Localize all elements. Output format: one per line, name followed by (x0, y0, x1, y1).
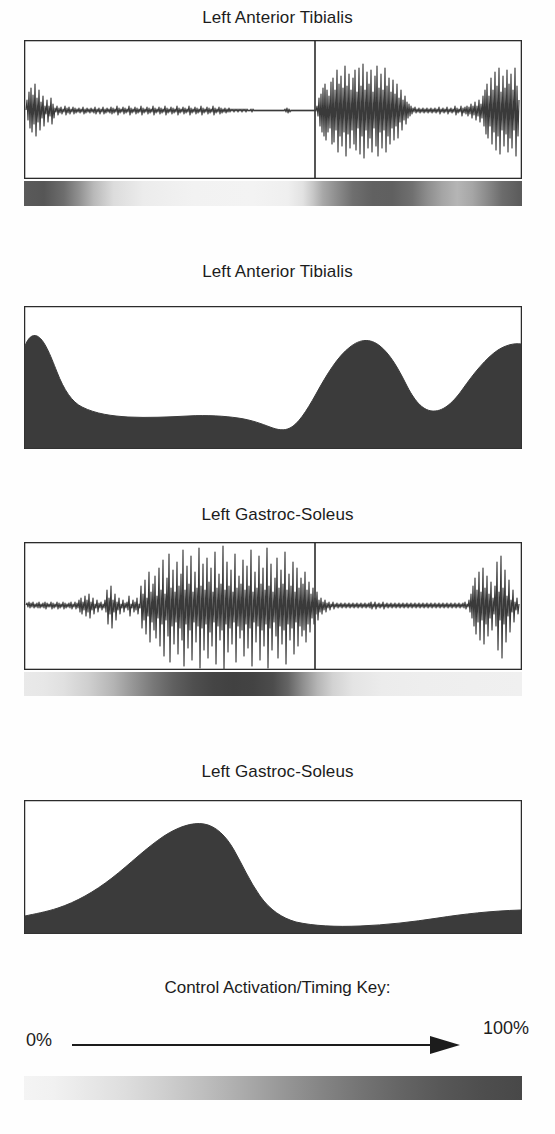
panel-4-svg (24, 800, 522, 934)
panel-3-activation-bar (24, 672, 522, 696)
legend-title: Control Activation/Timing Key: (0, 978, 555, 998)
panel-2-title: Left Anterior Tibialis (0, 262, 555, 282)
panel-4-plot (24, 800, 522, 934)
panel-1-title: Left Anterior Tibialis (0, 8, 555, 28)
panel-1-svg (24, 40, 522, 179)
panel-4-title: Left Gastroc-Soleus (0, 762, 555, 782)
panel-3-plot (24, 542, 522, 670)
panel-3-svg (24, 542, 522, 670)
panel-2-svg (24, 306, 522, 449)
panel-1-activation-bar (24, 181, 522, 206)
panel-3-title: Left Gastroc-Soleus (0, 505, 555, 525)
legend-min-label: 0% (26, 1030, 52, 1051)
right-arrow-icon (70, 1028, 460, 1054)
legend-max-label: 100% (483, 1018, 529, 1039)
figure-page: Left Anterior Tibialis Left Anterior Tib… (0, 0, 555, 1134)
panel-2-plot (24, 306, 522, 449)
legend-arrow-icon (70, 1028, 460, 1054)
legend-gradient-bar (24, 1076, 522, 1100)
panel-1-plot (24, 40, 522, 179)
